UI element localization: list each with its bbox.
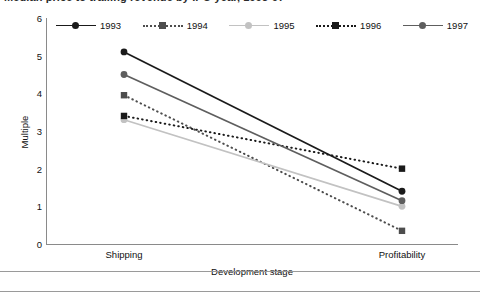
data-point [399,165,405,171]
data-point [399,228,405,234]
chart-page: Median price to trailing revenue by IPO … [0,0,480,293]
data-point [399,197,406,204]
series-1993 [121,49,406,195]
y-tick-label: 2 [22,164,42,173]
x-tick-label-profitability: Profitability [379,249,425,260]
chart-title-strip: Median price to trailing revenue by IPO … [0,0,480,11]
data-point [121,71,128,78]
data-point [121,49,128,56]
data-point [121,92,127,98]
chart-title: Median price to trailing revenue by IPO … [4,0,284,3]
y-tick-label: 3 [22,127,42,136]
series-lines [46,18,458,245]
series-1995 [121,116,406,209]
page-divider-top [0,271,480,272]
x-tick-label-shipping: Shipping [106,249,143,260]
y-tick-label: 5 [22,51,42,60]
data-point [121,113,127,119]
plot-area: Multiple Development stage 6543210Shippi… [46,18,458,245]
series-1997 [121,71,406,204]
y-tick-label: 6 [22,14,42,23]
y-tick-label: 4 [22,89,42,98]
y-tick-label: 0 [22,240,42,249]
data-point [399,188,406,195]
y-tick-label: 1 [22,202,42,211]
page-divider-bottom [0,291,480,292]
